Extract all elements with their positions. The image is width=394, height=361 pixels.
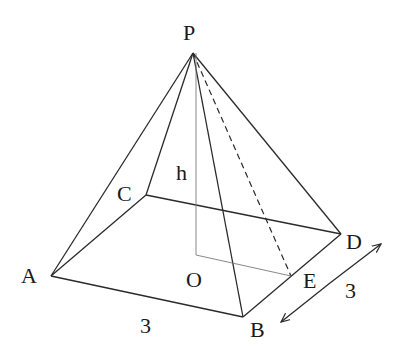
label-B: B: [250, 317, 265, 342]
pyramid-diagram: P h C A O E D B 3 3: [0, 0, 394, 361]
label-side-AB: 3: [140, 313, 151, 338]
edge-CD: [146, 195, 341, 234]
segment-OE: [196, 255, 291, 276]
edge-BD: [243, 234, 341, 317]
label-A: A: [21, 263, 37, 288]
slant-height-PE: [193, 53, 291, 276]
label-P: P: [183, 20, 195, 45]
edge-AB: [51, 276, 243, 317]
label-E: E: [303, 268, 316, 293]
edge-PA: [51, 53, 193, 276]
label-h: h: [176, 160, 187, 185]
label-C: C: [117, 181, 132, 206]
edge-AC: [51, 195, 146, 276]
edge-PD: [193, 53, 341, 234]
label-D: D: [346, 229, 362, 254]
label-O: O: [186, 267, 202, 292]
label-side-BD: 3: [345, 278, 356, 303]
